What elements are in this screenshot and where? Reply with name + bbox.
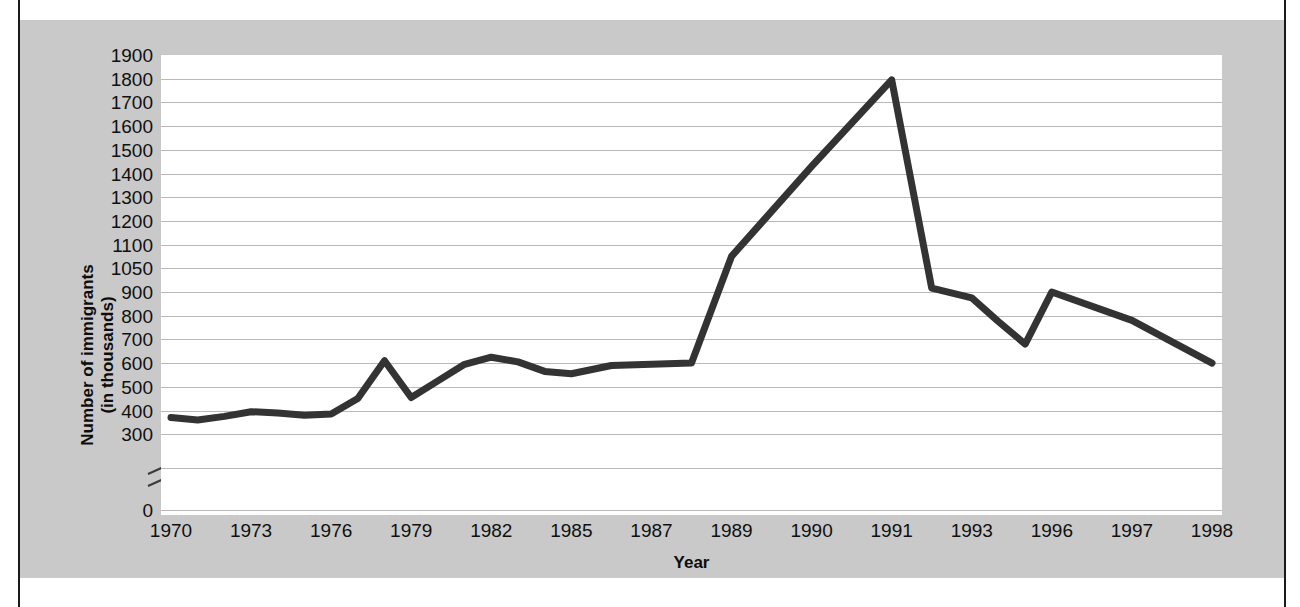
y-tick-label: 1600 xyxy=(89,117,153,136)
x-tick-label: 1985 xyxy=(550,520,592,542)
chart-page: Number of immigrants (in thousands) 1900… xyxy=(0,0,1300,607)
x-axis-tick-labels: 1970197319761979198219851987198919901991… xyxy=(161,520,1222,550)
plot-area xyxy=(161,55,1222,515)
y-tick-label: 1700 xyxy=(89,93,153,112)
y-axis-title-wrapper: Number of immigrants (in thousands) xyxy=(36,130,66,430)
x-tick-label: 1987 xyxy=(630,520,672,542)
x-tick-label: 1970 xyxy=(150,520,192,542)
y-tick-label: 1100 xyxy=(89,236,153,255)
x-tick-label: 1993 xyxy=(951,520,993,542)
x-tick-label: 1973 xyxy=(230,520,272,542)
y-tick-label: 400 xyxy=(89,402,153,421)
x-tick-label: 1989 xyxy=(710,520,752,542)
y-tick-label: 1900 xyxy=(89,46,153,65)
x-axis-title: Year xyxy=(161,553,1222,573)
y-tick-label: 1050 xyxy=(89,259,153,278)
x-tick-label: 1991 xyxy=(871,520,913,542)
x-tick-label: 1996 xyxy=(1031,520,1073,542)
y-tick-label: 700 xyxy=(89,330,153,349)
immigration-trend-line xyxy=(171,80,1212,420)
x-tick-label: 1979 xyxy=(390,520,432,542)
x-tick-label: 1990 xyxy=(790,520,832,542)
y-tick-label: 1400 xyxy=(89,165,153,184)
y-tick-label: 800 xyxy=(89,307,153,326)
y-tick-label: 1500 xyxy=(89,141,153,160)
x-tick-label: 1982 xyxy=(470,520,512,542)
x-tick-label: 1998 xyxy=(1191,520,1233,542)
x-tick-label: 1997 xyxy=(1111,520,1153,542)
y-tick-label: 1200 xyxy=(89,212,153,231)
y-axis-tick-labels: 1900180017001600150014001300120011001050… xyxy=(89,55,153,515)
y-tick-label: 500 xyxy=(89,378,153,397)
y-tick-label: 600 xyxy=(89,354,153,373)
y-tick-label: 300 xyxy=(89,425,153,444)
y-tick-label: 0 xyxy=(89,501,153,520)
y-tick-label: 1800 xyxy=(89,70,153,89)
data-line-series xyxy=(161,55,1222,515)
x-tick-label: 1976 xyxy=(310,520,352,542)
y-tick-label: 900 xyxy=(89,283,153,302)
y-tick-label: 1300 xyxy=(89,188,153,207)
page-border-right xyxy=(1284,0,1286,607)
